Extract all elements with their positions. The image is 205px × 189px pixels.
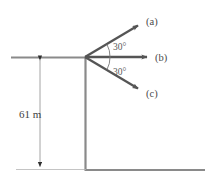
angle-arc-lower bbox=[107, 57, 110, 70]
angle-arc-upper bbox=[107, 45, 110, 58]
angle-label-lower: 30° bbox=[113, 67, 127, 77]
vector-label-b: (b) bbox=[155, 52, 168, 64]
vector-a bbox=[85, 25, 138, 57]
vector-c bbox=[85, 57, 138, 89]
vector-label-a: (a) bbox=[146, 16, 158, 28]
vector-a-shaft bbox=[85, 25, 138, 57]
angle-label-upper: 30° bbox=[113, 42, 127, 52]
vector-label-c: (c) bbox=[146, 88, 158, 100]
projectile-cliff-diagram: 30° 30° (a) (b) (c) 61 m bbox=[0, 0, 205, 189]
cliff-height-label: 61 m bbox=[19, 108, 42, 120]
vector-c-shaft bbox=[85, 57, 138, 89]
